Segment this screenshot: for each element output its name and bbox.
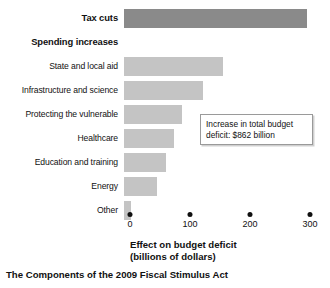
group-header-label: Spending increases <box>0 37 124 47</box>
x-axis-tick-label: 300 <box>302 219 317 229</box>
category-label: Infrastructure and science <box>0 85 124 95</box>
category-label: Protecting the vulnerable <box>0 109 124 119</box>
bar-cell <box>124 30 330 54</box>
x-axis-title-line1: Effect on budget deficit <box>130 239 330 251</box>
category-label: Education and training <box>0 157 124 167</box>
category-label: State and local aid <box>0 61 124 71</box>
bar-cell <box>124 174 330 198</box>
x-axis: 0100200300 <box>130 212 310 242</box>
tick-dot-icon <box>248 212 253 217</box>
category-label: Other <box>0 205 124 215</box>
bar <box>124 129 174 148</box>
bar-cell <box>124 6 330 30</box>
x-axis-tick-label: 200 <box>242 219 257 229</box>
chart-row: Education and training <box>0 150 330 174</box>
x-axis-tick: 300 <box>302 212 317 229</box>
annotation-line1: Increase in total budget <box>206 119 307 130</box>
annotation-box: Increase in total budget deficit: $862 b… <box>200 114 313 145</box>
x-axis-tick: 200 <box>242 212 257 229</box>
tick-dot-icon <box>127 212 132 217</box>
x-axis-tick: 0 <box>127 212 132 229</box>
chart-row: Infrastructure and science <box>0 78 330 102</box>
chart-title: The Components of the 2009 Fiscal Stimul… <box>6 269 228 280</box>
chart-row: Tax cuts <box>0 6 330 30</box>
bar <box>124 57 223 76</box>
x-axis-tick: 100 <box>182 212 197 229</box>
tick-dot-icon <box>188 212 193 217</box>
x-axis-tick-label: 100 <box>182 219 197 229</box>
bar-cell <box>124 54 330 78</box>
bar-cell <box>124 78 330 102</box>
bar <box>124 177 157 196</box>
bar <box>124 153 166 172</box>
category-label: Healthcare <box>0 133 124 143</box>
annotation-line2: deficit: $862 billion <box>206 130 307 141</box>
chart-row: Energy <box>0 174 330 198</box>
bar <box>124 9 307 28</box>
x-axis-title: Effect on budget deficit (billions of do… <box>130 239 330 262</box>
bar <box>124 81 203 100</box>
chart-row: State and local aid <box>0 54 330 78</box>
bar <box>124 105 182 124</box>
bar-cell <box>124 150 330 174</box>
x-axis-tick-label: 0 <box>127 219 132 229</box>
fiscal-stimulus-bar-chart: Tax cutsSpending increasesState and loca… <box>0 0 330 288</box>
group-header-row: Spending increases <box>0 30 330 54</box>
tick-dot-icon <box>308 212 313 217</box>
category-label: Energy <box>0 181 124 191</box>
category-label: Tax cuts <box>0 13 124 23</box>
x-axis-title-line2: (billions of dollars) <box>130 251 330 263</box>
